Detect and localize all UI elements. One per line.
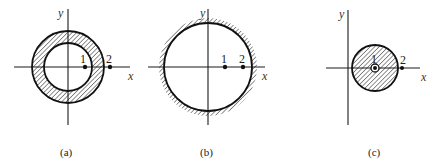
point-1-label: 1 — [80, 52, 86, 66]
x-axis-label: x — [127, 69, 134, 83]
panel-a: 1 2 x y (a) — [14, 6, 134, 159]
x-axis-label: x — [261, 69, 268, 83]
y-axis-label: y — [199, 6, 206, 20]
figure: 1 2 x y (a) 1 2 x y (b) 1 2 x y (c) — [0, 0, 448, 163]
panel-b: 1 2 x y (b) — [148, 6, 268, 159]
point-1-label: 1 — [221, 52, 227, 66]
y-axis-label: y — [338, 7, 345, 21]
caption-a: (a) — [60, 146, 73, 159]
panel-c: 1 2 x y (c) — [326, 7, 427, 159]
point-2-label: 2 — [239, 52, 245, 66]
y-axis-label: y — [57, 6, 64, 20]
caption-c: (c) — [368, 146, 381, 159]
point-2-label: 2 — [400, 53, 406, 67]
caption-b: (b) — [200, 146, 213, 159]
point-1 — [373, 66, 377, 70]
x-axis-label: x — [420, 70, 427, 84]
point-2-label: 2 — [106, 52, 112, 66]
point-1-label: 1 — [371, 52, 377, 66]
